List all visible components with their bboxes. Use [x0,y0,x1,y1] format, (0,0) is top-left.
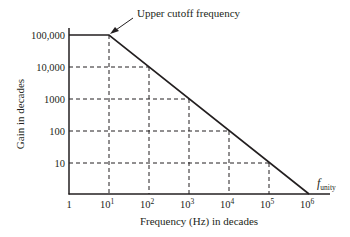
y-tick-1000: 1000 [44,94,65,105]
x-tick-10-1: 101 [100,197,115,210]
x-tick-labels: 1 101 102 103 104 105 106 [66,197,314,210]
cutoff-annotation: Upper cutoff frequency [137,7,241,19]
f-unity-label: funity [317,176,336,192]
x-tick-10-3: 103 [180,197,195,210]
dashed-guides [69,35,269,194]
y-tick-10000: 10,000 [36,62,65,73]
axes [69,28,331,195]
x-tick-10-2: 102 [140,197,155,210]
bode-plot: 100,000 10,000 1000 100 10 1 101 102 103… [0,0,350,237]
y-tick-labels: 100,000 10,000 1000 100 10 [31,30,65,169]
x-tick-1: 1 [66,199,71,210]
x-axis-title: Frequency (Hz) in decades [140,215,258,228]
y-axis-title: Gain in decades [14,79,26,149]
y-tick-100: 100 [49,126,65,137]
x-tick-10-5: 105 [260,197,275,210]
y-tick-100000: 100,000 [31,30,65,41]
x-tick-10-6: 106 [300,197,315,210]
cutoff-arrow [110,18,133,34]
x-tick-10-4: 104 [220,197,235,210]
y-tick-10: 10 [55,158,66,169]
